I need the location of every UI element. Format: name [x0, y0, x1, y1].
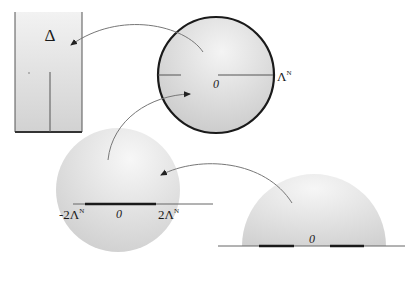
half-disc-origin-label: 0 — [309, 232, 315, 246]
middle-disc: -2ΛN 0 2ΛN — [56, 128, 213, 252]
diagram-canvas: Δ 0 ΛN -2ΛN 0 2ΛN 0 — [0, 0, 416, 288]
delta-rectangle: Δ — [15, 12, 82, 132]
half-disc: 0 — [218, 174, 405, 246]
top-circle: 0 ΛN — [158, 17, 292, 133]
disc-body — [56, 128, 180, 252]
rectangle-dot — [28, 72, 30, 74]
disc-right-label: 2ΛN — [158, 207, 179, 222]
circle-origin-label: 0 — [213, 77, 219, 91]
circle-radius-label: ΛN — [277, 69, 292, 84]
disc-origin-label: 0 — [116, 207, 122, 221]
delta-label: Δ — [45, 26, 56, 45]
